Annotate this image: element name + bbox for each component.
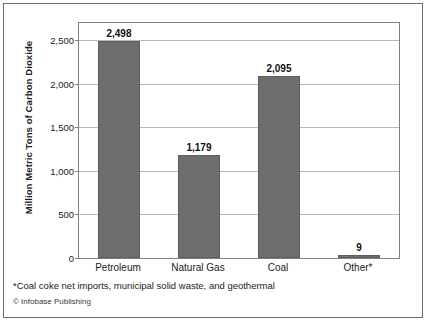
bar[interactable] bbox=[258, 76, 300, 258]
y-tick-label: 0 bbox=[28, 253, 74, 264]
bar[interactable] bbox=[178, 155, 220, 258]
footnote: *Coal coke net imports, municipal solid … bbox=[13, 280, 275, 291]
category-label: Other* bbox=[318, 262, 398, 273]
category-label: Petroleum bbox=[78, 262, 158, 273]
copyright-notice: © Infobase Publishing bbox=[13, 297, 91, 306]
y-tick-label: 500 bbox=[28, 209, 74, 220]
category-label: Natural Gas bbox=[158, 262, 238, 273]
x-axis-categories: PetroleumNatural GasCoalOther* bbox=[78, 262, 400, 278]
category-label: Coal bbox=[238, 262, 318, 273]
bar[interactable] bbox=[338, 255, 380, 258]
y-tick-label: 1,000 bbox=[28, 165, 74, 176]
bar[interactable] bbox=[98, 41, 140, 258]
bar-group[interactable]: 9 bbox=[338, 23, 380, 258]
bar-value-label: 1,179 bbox=[164, 142, 234, 153]
bar-group[interactable]: 2,095 bbox=[258, 23, 300, 258]
bar-value-label: 9 bbox=[324, 242, 394, 253]
plot-area: 05001,0001,5002,0002,500 2,4981,1792,095… bbox=[78, 22, 400, 259]
figure-frame: Million Metric Tons of Carbon Dioxide 05… bbox=[3, 3, 423, 318]
bar-group[interactable]: 2,498 bbox=[98, 23, 140, 258]
bars: 2,4981,1792,0959 bbox=[79, 23, 399, 258]
y-tick-label: 1,500 bbox=[28, 122, 74, 133]
y-tick-mark bbox=[75, 258, 79, 259]
bar-group[interactable]: 1,179 bbox=[178, 23, 220, 258]
y-tick-label: 2,500 bbox=[28, 35, 74, 46]
bar-value-label: 2,095 bbox=[244, 63, 314, 74]
y-tick-label: 2,000 bbox=[28, 78, 74, 89]
bar-value-label: 2,498 bbox=[84, 28, 154, 39]
